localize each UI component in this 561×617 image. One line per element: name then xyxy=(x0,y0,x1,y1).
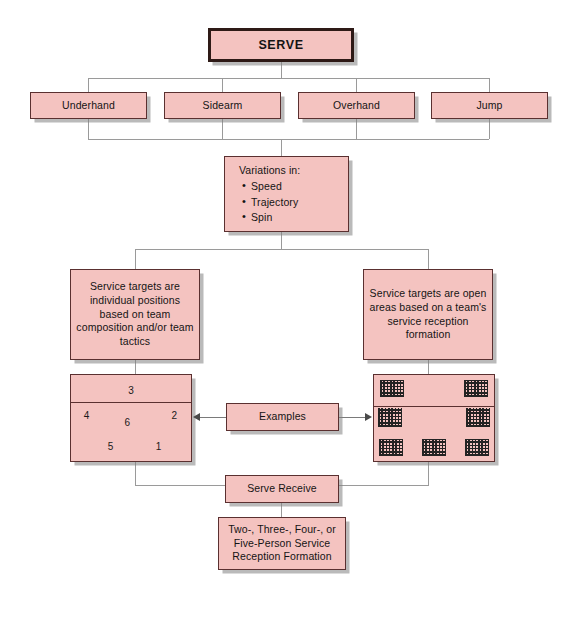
arrow-line-to-right-court xyxy=(339,417,365,418)
connector-bus-bottom xyxy=(88,139,489,140)
variations-heading: Variations in: xyxy=(239,163,300,178)
serve-type-label-jump: Jump xyxy=(471,99,507,113)
attack-line-left-court xyxy=(71,402,191,404)
connector-bus-to-underhand xyxy=(88,78,89,92)
serve-receive-label: Serve Receive xyxy=(242,482,322,496)
target-zone-mid-left xyxy=(378,408,402,427)
variations-list: Speed Trajectory Spin xyxy=(239,179,300,225)
examples-box[interactable]: Examples xyxy=(226,403,339,431)
connector-branch-left xyxy=(135,249,136,269)
connector-right-court-across xyxy=(339,485,429,486)
connector-right-court-down xyxy=(428,462,429,485)
target-zone-bottom-left xyxy=(379,439,403,456)
target-zone-mid-right xyxy=(466,408,490,427)
left-description-text: Service targets are individual positions… xyxy=(71,280,199,349)
court-position-2: 2 xyxy=(171,410,177,421)
court-position-5: 5 xyxy=(108,440,114,451)
target-zone-top-right xyxy=(464,380,488,397)
individual-positions-court[interactable]: 3 4 6 2 5 1 xyxy=(70,374,192,462)
open-areas-court[interactable] xyxy=(373,374,495,462)
arrow-head-left xyxy=(193,413,200,421)
variations-content: Variations in: Speed Trajectory Spin xyxy=(225,163,300,225)
variations-item-spin: Spin xyxy=(251,210,300,225)
connector-branch-right xyxy=(428,249,429,269)
connector-right-desc-to-court xyxy=(428,360,429,374)
reception-formation-box[interactable]: Two-, Three-, Four-, or Five-Person Serv… xyxy=(218,517,346,570)
court-position-4: 4 xyxy=(84,410,90,421)
connector-serve-receive-down xyxy=(281,503,282,517)
arrow-head-right xyxy=(365,413,372,421)
serve-type-box-jump[interactable]: Jump xyxy=(431,92,548,119)
target-zone-bottom-center xyxy=(422,439,446,456)
connector-overhand-down xyxy=(356,119,357,139)
arrow-line-to-left-court xyxy=(200,417,226,418)
serve-type-label-underhand: Underhand xyxy=(57,99,120,113)
target-zone-bottom-right xyxy=(465,439,489,456)
connector-bus-to-overhand xyxy=(356,78,357,92)
connector-branch-bus xyxy=(135,249,428,250)
connector-left-court-down xyxy=(135,462,136,485)
serve-type-label-overhand: Overhand xyxy=(328,99,385,113)
right-description-text: Service targets are open areas based on … xyxy=(364,287,492,342)
connector-variations-down xyxy=(281,232,282,249)
variations-item-speed: Speed xyxy=(251,179,300,194)
serve-type-box-underhand[interactable]: Underhand xyxy=(30,92,147,119)
serve-type-box-sidearm[interactable]: Sidearm xyxy=(164,92,281,119)
connector-bus-top xyxy=(88,78,489,79)
serve-title-label: SERVE xyxy=(253,37,308,54)
target-zone-top-left xyxy=(380,380,404,397)
right-description-box[interactable]: Service targets are open areas based on … xyxy=(363,269,493,360)
variations-box[interactable]: Variations in: Speed Trajectory Spin xyxy=(224,156,349,232)
reception-formation-text: Two-, Three-, Four-, or Five-Person Serv… xyxy=(219,523,345,565)
connector-sidearm-down xyxy=(222,119,223,139)
connector-bus-to-sidearm xyxy=(222,78,223,92)
connector-bus-to-variations xyxy=(281,139,282,156)
court-position-3: 3 xyxy=(128,385,134,396)
flowchart-canvas: SERVE Underhand Sidearm Overhand Jump Va… xyxy=(0,0,561,617)
serve-type-label-sidearm: Sidearm xyxy=(198,99,248,113)
court-position-6: 6 xyxy=(125,417,131,428)
serve-type-box-overhand[interactable]: Overhand xyxy=(298,92,415,119)
serve-receive-box[interactable]: Serve Receive xyxy=(225,475,339,503)
court-position-1: 1 xyxy=(156,440,162,451)
connector-bus-to-jump xyxy=(489,78,490,92)
connector-left-desc-to-court xyxy=(135,360,136,374)
variations-item-trajectory: Trajectory xyxy=(251,195,300,210)
examples-label: Examples xyxy=(254,410,311,424)
connector-serve-down xyxy=(281,62,282,79)
serve-title-box[interactable]: SERVE xyxy=(208,28,354,62)
connector-left-court-across xyxy=(135,485,225,486)
connector-jump-down xyxy=(489,119,490,139)
left-description-box[interactable]: Service targets are individual positions… xyxy=(70,269,200,360)
connector-underhand-down xyxy=(88,119,89,139)
